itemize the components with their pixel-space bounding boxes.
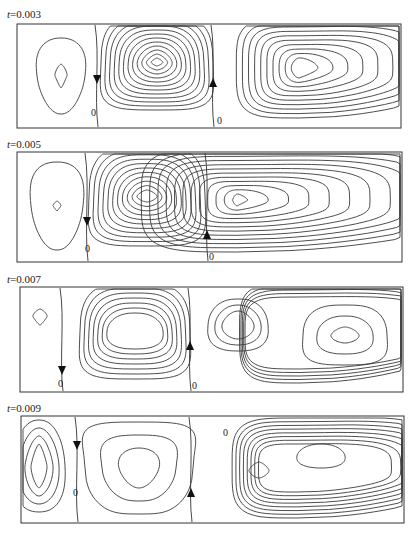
streamline-panel: t=0.00900 [0, 0, 419, 533]
arrow-up-icon [187, 488, 195, 497]
streamline-contour [297, 444, 345, 468]
streamline-contour [31, 444, 47, 488]
right-cell-right-eddy [297, 444, 345, 468]
streamline-plot: 00 [0, 0, 419, 533]
streamline-contour [25, 436, 53, 496]
streamline-contour [118, 448, 159, 488]
streamline-contour [82, 422, 195, 514]
streamline-contour [23, 428, 59, 504]
zero-streamline [75, 417, 78, 522]
zero-label: 0 [223, 427, 228, 438]
arrow-down-icon [73, 441, 81, 450]
zero-label: 0 [73, 487, 78, 498]
middle-cell [82, 422, 195, 514]
streamline-contour [101, 435, 178, 501]
left-cell [23, 420, 65, 512]
zero-streamline [189, 417, 192, 522]
